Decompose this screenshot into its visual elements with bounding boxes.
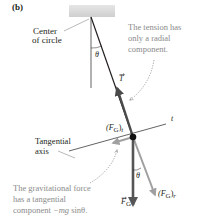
t-axis-label: t xyxy=(171,115,173,123)
gravity-note-line3: component −mg sinθ. xyxy=(13,205,91,216)
tension-note-line1: The tension has xyxy=(128,22,181,33)
fg-t-subscript: t xyxy=(121,126,123,134)
tension-note-line2: only a radial xyxy=(128,33,181,44)
tangential-label-line1: Tangential xyxy=(35,136,71,146)
center-of-circle-label: Center of circle xyxy=(33,27,62,46)
pendulum-bob xyxy=(130,134,137,141)
gravity-note-pointer xyxy=(90,150,117,183)
tangential-label-line2: axis xyxy=(35,146,71,156)
tension-note-pointer xyxy=(130,60,154,100)
gravity-note-line1: The gravitational force xyxy=(13,183,91,194)
gravity-note: The gravitational force has a tangential… xyxy=(13,183,91,216)
gravity-note-line3-post: sinθ. xyxy=(69,205,87,215)
gravity-radial-component-arrow xyxy=(133,137,155,195)
gravity-note-line3-math: −mg xyxy=(53,205,69,215)
gravity-tangential-label: (FG)t xyxy=(106,124,123,134)
gravity-force-label: FG xyxy=(121,198,131,208)
fg-r-main: (F xyxy=(158,189,166,198)
panel-label: (b) xyxy=(12,3,23,12)
tension-note-line3: component. xyxy=(128,44,181,55)
fg-t-main: (F xyxy=(106,123,114,132)
theta-top-label: θ xyxy=(95,51,99,59)
gravity-radial-label: (FG)r xyxy=(158,190,176,200)
center-label-line2: of circle xyxy=(32,36,62,45)
tension-symbol: T xyxy=(119,75,123,83)
fg-r-subscript: r xyxy=(173,192,176,200)
gravity-note-line2: has a tangential xyxy=(13,194,91,205)
fg-symbol-sub: G xyxy=(126,200,131,208)
theta-bottom-label: θ xyxy=(136,172,140,180)
theta-arc-top xyxy=(91,46,102,48)
gravity-note-line3-pre: component xyxy=(13,205,53,215)
center-pointer-line xyxy=(64,19,89,31)
tension-note: The tension has only a radial component. xyxy=(128,22,181,55)
ceiling-support xyxy=(69,5,115,17)
tangential-axis-label: Tangential axis xyxy=(35,136,71,156)
